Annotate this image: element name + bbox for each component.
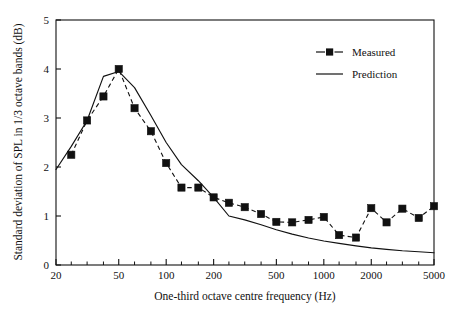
x-tick-label: 2000 — [360, 269, 383, 281]
measured-data-point — [241, 204, 248, 211]
x-tick-label: 20 — [51, 269, 63, 281]
y-tick-label: 5 — [44, 14, 50, 26]
measured-data-point — [273, 218, 280, 225]
legend-prediction-label: Prediction — [352, 68, 398, 80]
y-tick-label: 4 — [44, 63, 50, 75]
measured-data-point — [320, 213, 327, 220]
measured-data-point — [415, 214, 422, 221]
measured-data-point — [100, 93, 107, 100]
measured-data-point — [210, 194, 217, 201]
measured-data-point — [368, 205, 375, 212]
measured-data-point — [399, 205, 406, 212]
legend-measured-label: Measured — [352, 46, 396, 58]
x-axis-title: One-third octave centre frequency (Hz) — [154, 290, 336, 303]
chart-svg: 012345 2050100200500100020005000 Measure… — [0, 0, 453, 319]
measured-data-point — [68, 151, 75, 158]
measured-data-point — [195, 184, 202, 191]
y-tick-label: 0 — [44, 259, 50, 271]
x-tick-label: 500 — [268, 269, 285, 281]
x-tick-label: 50 — [113, 269, 125, 281]
legend-measured-marker — [326, 48, 333, 55]
measured-data-point — [131, 105, 138, 112]
measured-data-point — [178, 184, 185, 191]
measured-data-point — [225, 199, 232, 206]
measured-data-point — [430, 203, 437, 210]
measured-data-point — [352, 234, 359, 241]
x-tick-label: 100 — [158, 269, 175, 281]
measured-data-point — [84, 117, 91, 124]
y-tick-label: 2 — [44, 161, 50, 173]
measured-data-point — [383, 219, 390, 226]
measured-data-point — [335, 232, 342, 239]
y-tick-label: 3 — [44, 112, 50, 124]
y-tick-label: 1 — [44, 210, 50, 222]
x-tick-label: 200 — [205, 269, 222, 281]
y-axis-title: Standard deviation of SPL in 1/3 octave … — [12, 23, 25, 260]
measured-data-point — [257, 210, 264, 217]
x-tick-label: 1000 — [313, 269, 336, 281]
measured-data-point — [163, 159, 170, 166]
measured-data-point — [289, 219, 296, 226]
x-tick-label: 5000 — [423, 269, 446, 281]
measured-data-point — [115, 65, 122, 72]
measured-data-point — [147, 128, 154, 135]
chart-figure: 012345 2050100200500100020005000 Measure… — [0, 0, 453, 319]
measured-data-point — [305, 216, 312, 223]
